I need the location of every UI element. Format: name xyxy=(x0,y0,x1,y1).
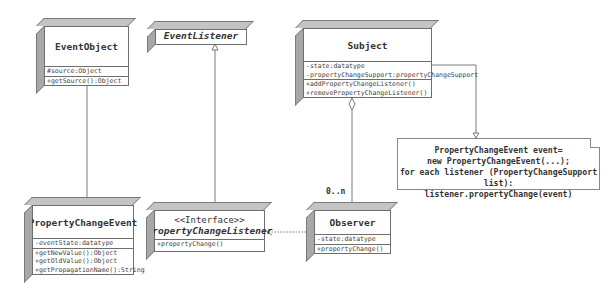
interface-name: <<Interface>> EventListener xyxy=(156,30,246,44)
interface-property-change-listener[interactable]: <<Interface>> PropertyChangeListener +pr… xyxy=(154,210,265,252)
note-dogear xyxy=(590,138,600,148)
class-subject[interactable]: Subject -state:datatype -propertyChangeS… xyxy=(303,28,432,98)
attributes: -state:datatype xyxy=(315,234,390,244)
class-property-change-event[interactable]: PropertyChangeEvent -eventState:datatype… xyxy=(32,205,134,275)
attributes: -eventState:datatype xyxy=(33,238,133,248)
methods: +getNewValue():Object +getOldValue():Obj… xyxy=(33,248,133,275)
class-name: PropertyChangeEvent xyxy=(33,206,133,238)
class-name: Subject xyxy=(304,29,431,61)
methods: +getSource():Object xyxy=(45,76,128,86)
methods: +propertyChange() xyxy=(315,244,390,254)
code-note: PropertyChangeEvent event= new PropertyC… xyxy=(397,138,600,190)
class-name: EventObject xyxy=(45,27,128,66)
interface-name: <<Interface>> PropertyChangeListener xyxy=(155,211,264,239)
multiplicity-label: 0..n xyxy=(326,187,345,196)
attributes: #source:Object xyxy=(45,66,128,76)
class-name: Observer xyxy=(315,211,390,234)
class-observer[interactable]: Observer -state:datatype +propertyChange… xyxy=(314,210,391,254)
attributes: -state:datatype -propertyChangeSupport:p… xyxy=(304,61,431,79)
methods: +propertyChange() xyxy=(155,239,264,251)
methods: +addPropertyChangeListener() +removeProp… xyxy=(304,79,431,97)
interface-event-listener[interactable]: <<Interface>> EventListener xyxy=(155,29,247,45)
class-event-object[interactable]: EventObject #source:Object +getSource():… xyxy=(44,26,129,86)
